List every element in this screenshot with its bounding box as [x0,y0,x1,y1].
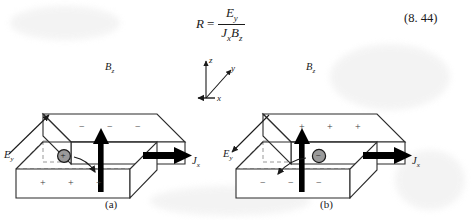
electric-field-subscript-b: y [229,154,232,162]
slab-svg-a [2,58,202,220]
magnetic-field-subscript-a: z [111,67,114,75]
electric-field-label-b: Ey [223,148,233,162]
denominator-second-symbol: B [231,25,239,40]
magnetic-field-label-a: Bz [105,61,114,75]
carrier-sign-a: + [61,151,66,160]
front-face-sign-a: + [68,178,74,188]
top-face-sign-a: − [79,122,85,132]
hall-coefficient-equation: R = Ey JxBz [196,6,245,43]
current-density-subscript-b: x [417,161,420,169]
z-axis-label: z [209,55,213,65]
fraction-denominator: JxBz [218,24,245,43]
figure-caption-a: (a) [105,198,117,210]
numerator-subscript: y [234,13,238,23]
current-density-label-a: Jx [192,155,200,169]
top-face-sign-b: + [355,122,361,132]
top-face-sign-b: + [299,122,305,132]
top-face-sign-a: − [135,122,141,132]
front-face-sign-b: − [260,178,266,188]
front-face-sign-a: + [96,178,102,188]
equation-number: (8. 44) [404,11,437,26]
equation-fraction: Ey JxBz [218,6,245,43]
front-face-sign-a: + [40,178,46,188]
figure-page: R = Ey JxBz (8. 44) z y x [0,0,472,220]
carrier-sign-b: − [316,151,321,160]
slab-svg-b [222,58,422,220]
equation-lhs: R [196,16,204,32]
x-axis-label: x [217,93,221,103]
figure-caption-b: (b) [320,198,333,210]
denominator-second-subscript: z [239,32,242,42]
magnetic-field-label-b: Bz [306,61,315,75]
hall-effect-diagram-a: Bz Ey Jx + − − − + + + [2,58,202,220]
current-density-label-b: Jx [412,155,420,169]
current-density-subscript-a: x [197,161,200,169]
electric-field-label-a: Ey [4,149,14,163]
scan-artifact [10,6,120,40]
top-face-sign-b: + [327,122,333,132]
top-face-sign-a: − [107,122,113,132]
fraction-numerator: Ey [223,6,241,24]
hall-effect-diagram-b: Bz Ey Jx − + + + − − − [222,58,422,220]
slab-bottom-left-edge-b [236,142,263,169]
front-face-sign-b: − [288,178,294,188]
electric-field-subscript-a: y [10,155,13,163]
magnetic-field-subscript-b: z [312,67,315,75]
front-face-sign-b: − [316,178,322,188]
numerator-symbol: E [226,5,234,20]
slab-bottom-left-edge-a [16,142,43,169]
equals-sign: = [207,16,214,32]
